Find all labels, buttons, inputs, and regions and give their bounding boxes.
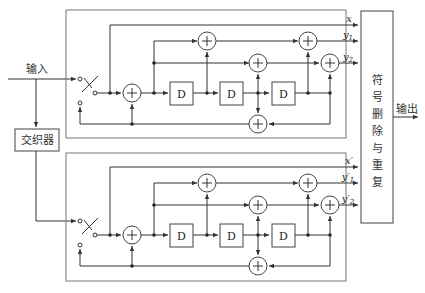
output-y2-label: y2 (342, 51, 354, 64)
delay-1-label: D (177, 230, 186, 243)
block-char-7: 复 (372, 175, 383, 189)
delay-1-label: D (177, 88, 186, 101)
output-y1-prime-label: y′1 (341, 171, 354, 184)
output-x-prime-label: x′ (345, 155, 354, 166)
input-label: 输入 (26, 62, 48, 76)
output-section: 输出 (393, 102, 418, 117)
block-char-5: 与 (372, 142, 383, 155)
output-x-label: x (346, 13, 352, 24)
block-char-3: 删 (372, 108, 383, 121)
turbo-encoder-diagram: 输入 交织器 D (0, 0, 425, 293)
delay-3-label: D (279, 88, 288, 101)
output-label: 输出 (396, 102, 418, 116)
encoder-1: D D D (66, 10, 358, 138)
delay-2-label: D (227, 88, 236, 101)
encoder-2: D D D x′ y′1 (66, 153, 358, 281)
interleaver-label: 交织器 (21, 133, 54, 147)
block-char-1: 符 (372, 74, 383, 87)
delay-2-label: D (227, 230, 236, 243)
output-y1-label: y1 (342, 29, 353, 42)
block-char-2: 号 (372, 91, 383, 104)
output-y2-prime-label: y′2 (341, 193, 355, 206)
block-char-6: 重 (372, 158, 383, 172)
interleaver-block: 交织器 (15, 129, 76, 221)
puncture-repeat-block: 符 号 删 除 与 重 复 (361, 11, 393, 223)
block-char-4: 除 (372, 124, 383, 138)
delay-3-label: D (279, 230, 288, 243)
